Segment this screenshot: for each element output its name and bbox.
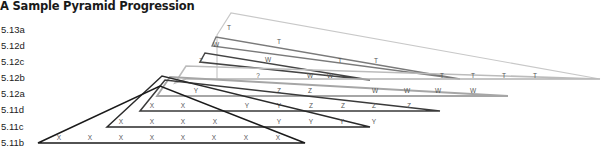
pyramid-outline — [107, 76, 370, 127]
route-mark: W — [372, 87, 379, 94]
route-mark: Z — [372, 102, 376, 109]
route-mark: X — [119, 134, 124, 141]
pyramid-outline — [157, 77, 508, 96]
route-mark: X — [212, 134, 217, 141]
route-mark: T — [338, 57, 342, 64]
route-mark: W — [213, 41, 220, 48]
route-mark: X — [57, 134, 62, 141]
route-mark: X — [150, 118, 155, 125]
route-mark: X — [181, 102, 186, 109]
route-mark: T — [277, 38, 281, 45]
route-mark: X — [213, 118, 218, 125]
pyramid-5-11b: XXXXXXXX — [38, 86, 305, 143]
route-mark: X — [150, 134, 155, 141]
route-mark: W — [307, 72, 314, 79]
route-mark: Z — [341, 102, 345, 109]
route-mark: X — [181, 118, 186, 125]
route-mark: Z — [309, 102, 313, 109]
route-mark: X — [88, 134, 93, 141]
route-mark: T — [533, 72, 537, 79]
pyramid-5-12a: YZZWWWW — [157, 77, 508, 96]
pyramid-diagram: TWTZWTT?WWTTTTYZZWWWWXXYYZZZZXXXXYYYYXXX… — [0, 0, 609, 153]
route-mark: Y — [194, 87, 199, 94]
route-mark: X — [244, 134, 249, 141]
route-mark: W — [327, 72, 334, 79]
route-mark: Z — [407, 102, 411, 109]
route-mark: T — [227, 24, 231, 31]
route-mark: X — [150, 102, 155, 109]
route-mark: T — [471, 72, 475, 79]
route-mark: Y — [245, 102, 250, 109]
route-mark: X — [181, 134, 186, 141]
route-mark: Y — [277, 118, 282, 125]
route-mark: T — [374, 57, 378, 64]
route-mark: W — [265, 56, 272, 63]
route-mark: W — [435, 87, 442, 94]
route-mark: X — [119, 118, 124, 125]
route-mark: W — [470, 87, 477, 94]
route-mark: Z — [308, 87, 312, 94]
route-mark: X — [276, 134, 281, 141]
route-mark: ? — [256, 72, 260, 79]
route-mark: Y — [340, 118, 345, 125]
route-mark: Y — [372, 118, 377, 125]
route-mark: Z — [199, 57, 203, 64]
route-mark: W — [404, 87, 411, 94]
route-mark: T — [502, 72, 506, 79]
route-mark: T — [440, 72, 444, 79]
route-mark: Y — [309, 118, 314, 125]
pyramid-outline — [38, 86, 305, 143]
